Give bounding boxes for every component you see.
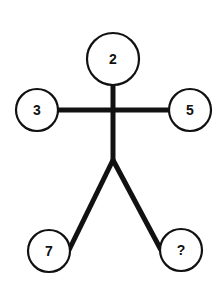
right-hand-node: 5 — [169, 89, 211, 131]
stick-figure-puzzle: 2 3 5 7 ? — [0, 0, 223, 299]
left-foot-label: 7 — [45, 243, 53, 259]
left-hand-node: 3 — [16, 89, 58, 131]
left-leg-line — [69, 160, 113, 250]
left-foot-node: 7 — [28, 230, 70, 272]
head-node: 2 — [87, 33, 139, 85]
right-foot-node: ? — [160, 229, 202, 271]
right-hand-label: 5 — [186, 102, 194, 118]
right-leg-line — [113, 160, 161, 250]
left-hand-label: 3 — [33, 102, 41, 118]
head-label: 2 — [109, 51, 117, 67]
right-foot-label: ? — [177, 242, 186, 258]
